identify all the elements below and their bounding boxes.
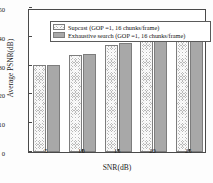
bar-group	[140, 36, 167, 152]
bar-group	[176, 30, 203, 152]
bar	[47, 65, 60, 152]
bar	[33, 65, 46, 152]
x-tick-label: 10	[69, 147, 93, 154]
y-tick-label: 20	[0, 92, 5, 99]
y-tick-label: 50	[0, 6, 5, 13]
y-tick-mark	[29, 93, 32, 94]
legend-item-supcast: Supcast (GOP =1, 16 chunks/frame)	[53, 23, 208, 31]
bar	[83, 54, 96, 152]
y-tick-mark	[29, 7, 32, 8]
plot-area: Supcast (GOP =1, 16 chunks/frame) Exhaus…	[28, 9, 206, 153]
bar	[105, 45, 118, 152]
y-tick-label: 30	[0, 63, 5, 70]
x-axis-title: SNR(dB)	[28, 163, 206, 172]
bar	[176, 32, 189, 152]
bar	[154, 36, 167, 152]
legend-item-exhaustive-search: Exhaustive search (GOP =1, 16 chunks/fra…	[53, 31, 208, 39]
y-tick-mark	[29, 122, 32, 123]
chart-figure: Average PSNR(dB) 01020304050 Supcast (GO…	[0, 0, 213, 183]
bar-group	[33, 65, 60, 152]
x-tick-label: 25	[176, 147, 200, 154]
bar-group	[105, 43, 132, 152]
x-tick-label: 5	[34, 147, 58, 154]
bar	[190, 30, 203, 152]
legend-swatch-supcast	[53, 24, 65, 30]
bar	[140, 37, 153, 152]
y-tick-mark	[29, 151, 32, 152]
legend-swatch-exhaustive-search	[53, 32, 65, 38]
bar	[69, 55, 82, 152]
y-tick-label: 40	[0, 34, 5, 41]
x-tick-label: 15	[105, 147, 129, 154]
y-tick-mark	[29, 36, 32, 37]
chart-legend: Supcast (GOP =1, 16 chunks/frame) Exhaus…	[50, 21, 211, 42]
y-tick-label: 0	[0, 150, 5, 157]
bar-group	[69, 54, 96, 152]
y-tick-mark	[29, 65, 32, 66]
y-tick-label: 10	[0, 121, 5, 128]
legend-label-supcast: Supcast (GOP =1, 16 chunks/frame)	[68, 24, 159, 31]
y-axis-title: Average PSNR(dB)	[7, 13, 15, 123]
legend-label-exhaustive-search: Exhaustive search (GOP =1, 16 chunks/fra…	[68, 32, 185, 39]
x-tick-label: 20	[141, 147, 165, 154]
bar	[119, 43, 132, 152]
